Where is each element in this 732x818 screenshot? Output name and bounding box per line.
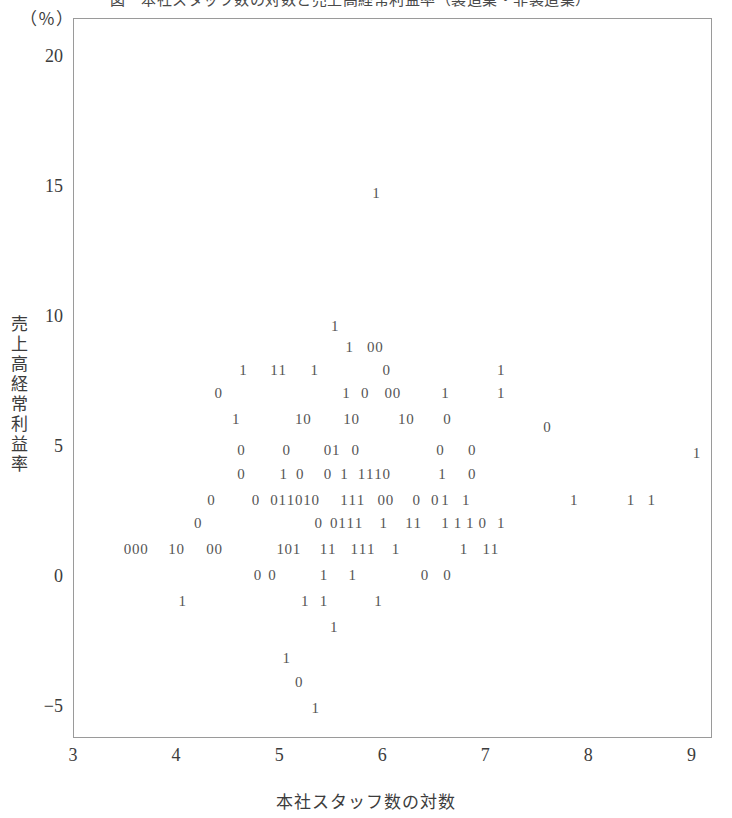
data-point-1: 1 bbox=[693, 446, 701, 461]
data-point-0: 0 bbox=[132, 542, 140, 557]
x-axis-tick-label: 4 bbox=[156, 745, 196, 766]
data-point-0: 0 bbox=[543, 420, 551, 435]
data-point-0: 0 bbox=[296, 466, 304, 481]
y-axis-title-char: 常 bbox=[8, 395, 30, 415]
data-point-1: 1 bbox=[570, 492, 578, 507]
data-point-0: 0 bbox=[324, 443, 332, 458]
data-point-0: 0 bbox=[295, 492, 303, 507]
data-point-1: 1 bbox=[349, 568, 357, 583]
data-point-1: 1 bbox=[276, 542, 284, 557]
data-point-0: 0 bbox=[283, 443, 291, 458]
y-axis-tick-label: −5 bbox=[3, 696, 63, 717]
data-point-1: 1 bbox=[627, 492, 635, 507]
data-point-1: 1 bbox=[332, 443, 340, 458]
y-axis-title-char: 高 bbox=[8, 355, 30, 375]
data-point-0: 0 bbox=[393, 386, 401, 401]
data-point-0: 0 bbox=[352, 443, 360, 458]
y-axis-tick-label: 5 bbox=[3, 436, 63, 457]
data-point-1: 1 bbox=[283, 651, 291, 666]
data-point-1: 1 bbox=[310, 362, 318, 377]
data-point-0: 0 bbox=[254, 568, 262, 583]
data-point-1: 1 bbox=[497, 516, 505, 531]
data-point-1: 1 bbox=[379, 516, 387, 531]
data-point-1: 1 bbox=[295, 412, 303, 427]
x-axis-tick-label: 6 bbox=[362, 745, 402, 766]
data-point-1: 1 bbox=[355, 516, 363, 531]
data-point-1: 1 bbox=[497, 386, 505, 401]
data-point-0: 0 bbox=[207, 492, 215, 507]
data-point-0: 0 bbox=[443, 568, 451, 583]
x-axis-title: 本社スタッフ数の対数 bbox=[0, 788, 732, 813]
data-point-0: 0 bbox=[268, 568, 276, 583]
data-point-0: 0 bbox=[311, 492, 319, 507]
data-point-0: 0 bbox=[215, 386, 223, 401]
y-axis-tick-label: 15 bbox=[3, 176, 63, 197]
data-point-1: 1 bbox=[372, 186, 380, 201]
y-axis-title-char: 率 bbox=[8, 455, 30, 475]
y-axis-tick-label: 10 bbox=[3, 306, 63, 327]
data-point-0: 0 bbox=[468, 443, 476, 458]
data-point-0: 0 bbox=[431, 492, 439, 507]
data-point-1: 1 bbox=[359, 542, 367, 557]
data-point-1: 1 bbox=[438, 466, 446, 481]
y-axis-tick-label: 0 bbox=[3, 566, 63, 587]
data-point-0: 0 bbox=[270, 492, 278, 507]
data-point-0: 0 bbox=[352, 412, 360, 427]
y-axis-title-char: 利 bbox=[8, 415, 30, 435]
data-point-1: 1 bbox=[178, 594, 186, 609]
data-point-0: 0 bbox=[215, 542, 223, 557]
data-point-0: 0 bbox=[386, 492, 394, 507]
data-point-1: 1 bbox=[349, 492, 357, 507]
data-point-1: 1 bbox=[358, 466, 366, 481]
data-point-1: 1 bbox=[270, 362, 278, 377]
data-point-1: 1 bbox=[374, 466, 382, 481]
data-point-0: 0 bbox=[206, 542, 214, 557]
data-point-0: 0 bbox=[237, 443, 245, 458]
data-point-1: 1 bbox=[460, 542, 468, 557]
data-point-0: 0 bbox=[383, 466, 391, 481]
data-point-0: 0 bbox=[237, 466, 245, 481]
data-point-1: 1 bbox=[328, 542, 336, 557]
data-point-1: 1 bbox=[392, 542, 400, 557]
data-point-0: 0 bbox=[315, 516, 323, 531]
figure-title: 図 本社スタッフ数の対数と売上高経常利益率（製造業・非製造業） bbox=[110, 0, 591, 9]
data-point-1: 1 bbox=[405, 516, 413, 531]
data-point-1: 1 bbox=[278, 492, 286, 507]
x-axis-tick-label: 8 bbox=[568, 745, 608, 766]
data-point-0: 0 bbox=[385, 386, 393, 401]
data-point-1: 1 bbox=[239, 362, 247, 377]
x-axis-tick-label: 9 bbox=[671, 745, 711, 766]
data-point-1: 1 bbox=[232, 412, 240, 427]
data-point-0: 0 bbox=[375, 339, 383, 354]
data-point-0: 0 bbox=[377, 492, 385, 507]
data-point-0: 0 bbox=[383, 362, 391, 377]
data-point-1: 1 bbox=[320, 568, 328, 583]
data-point-1: 1 bbox=[320, 542, 328, 557]
data-point-0: 0 bbox=[367, 339, 375, 354]
data-point-1: 1 bbox=[346, 516, 354, 531]
data-point-1: 1 bbox=[293, 542, 301, 557]
data-point-1: 1 bbox=[287, 492, 295, 507]
data-point-1: 1 bbox=[367, 542, 375, 557]
y-axis-title-char: 経 bbox=[8, 375, 30, 395]
data-point-1: 1 bbox=[331, 318, 339, 333]
data-point-1: 1 bbox=[340, 466, 348, 481]
data-point-1: 1 bbox=[466, 516, 474, 531]
data-point-1: 1 bbox=[454, 516, 462, 531]
x-axis-tick-label: 5 bbox=[259, 745, 299, 766]
data-point-1: 1 bbox=[330, 620, 338, 635]
data-point-1: 1 bbox=[462, 492, 470, 507]
data-point-0: 0 bbox=[443, 412, 451, 427]
data-point-1: 1 bbox=[351, 542, 359, 557]
data-point-0: 0 bbox=[124, 542, 132, 557]
data-point-1: 1 bbox=[342, 386, 350, 401]
data-point-1: 1 bbox=[413, 516, 421, 531]
data-point-1: 1 bbox=[441, 516, 449, 531]
data-point-1: 1 bbox=[441, 492, 449, 507]
data-point-0: 0 bbox=[303, 412, 311, 427]
data-point-1: 1 bbox=[338, 516, 346, 531]
data-point-0: 0 bbox=[194, 516, 202, 531]
data-point-1: 1 bbox=[311, 700, 319, 715]
data-point-1: 1 bbox=[301, 594, 309, 609]
data-point-1: 1 bbox=[441, 386, 449, 401]
